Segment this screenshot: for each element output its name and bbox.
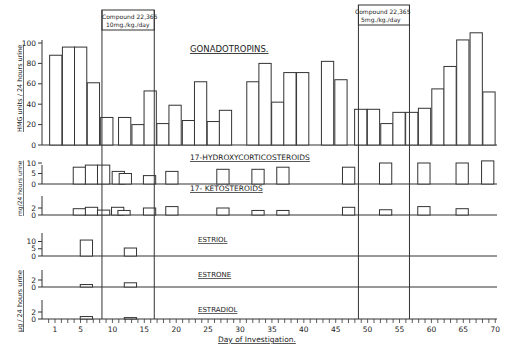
bar-17-ketosteroids <box>85 207 97 215</box>
bar-17-hydroxycorticosteroids <box>379 163 391 184</box>
bar-17-hydroxycorticosteroids <box>97 165 109 184</box>
y-tick-label: 80 <box>26 59 36 68</box>
bar-gonadotropins <box>470 33 482 145</box>
x-tick-label: 30 <box>235 325 245 334</box>
bar-17-ketosteroids <box>418 207 430 215</box>
bar-gonadotropins <box>335 80 347 145</box>
xlabel-day: Day of Investigation. <box>218 335 296 344</box>
y-tick-label: 60 <box>26 79 36 88</box>
bar-gonadotropins <box>101 117 113 145</box>
x-tick-label: 25 <box>203 325 213 334</box>
x-tick-label: 20 <box>171 325 181 334</box>
bar-17-ketosteroids <box>118 210 130 215</box>
x-tick-label: 45 <box>331 325 341 334</box>
bar-gonadotropins <box>207 122 219 145</box>
bar-17-ketosteroids <box>379 210 391 215</box>
bar-gonadotropins <box>132 125 144 145</box>
x-tick-label: 70 <box>490 325 500 334</box>
bar-gonadotropins <box>355 109 367 145</box>
bar-17-ketosteroids <box>252 210 264 215</box>
bar-gonadotropins <box>272 102 284 145</box>
bar-gonadotropins <box>457 40 469 145</box>
title-estrone: ESTRONE <box>198 271 231 279</box>
bar-17-ketosteroids <box>97 210 109 215</box>
bar-gonadotropins <box>119 117 131 145</box>
bar-gonadotropins <box>297 73 309 145</box>
bar-gonadotropins <box>483 92 495 145</box>
bar-17-hydroxycorticosteroids <box>119 174 131 185</box>
y-tick-label: 2 <box>31 308 36 317</box>
y-tick-label: 2 <box>31 276 36 285</box>
title-estriol: ESTRIOL <box>198 236 228 244</box>
bar-17-hydroxycorticosteroids <box>217 169 229 184</box>
x-tick-label: 55 <box>395 325 405 334</box>
bar-gonadotropins <box>157 124 169 145</box>
y-tick-label: 5 <box>31 169 36 178</box>
bar-gonadotropins <box>194 82 206 145</box>
bar-gonadotropins <box>321 61 333 145</box>
bar-17-ketosteroids <box>217 208 229 215</box>
y-tick-label: 10 <box>26 159 36 168</box>
treatment-1-line2: 10mg./kg./day <box>106 21 150 29</box>
bar-17-hydroxycorticosteroids <box>73 167 85 184</box>
bar-gonadotropins <box>219 110 231 145</box>
bar-estriol <box>124 248 136 256</box>
title-gonadotropins: GONADOTROPINS. <box>190 44 269 54</box>
bar-17-ketosteroids <box>277 210 289 215</box>
ylabel-mg: mg/24 hours urine <box>16 160 24 216</box>
y-tick-label: 40 <box>26 100 36 109</box>
x-tick-label: 35 <box>267 325 277 334</box>
bar-gonadotropins <box>406 112 418 145</box>
bar-gonadotropins <box>259 63 271 145</box>
treatment-2-line1: Compound 22,365 <box>355 8 411 16</box>
chart-panels: 0204060801000510020510020215101520253035… <box>22 5 501 334</box>
y-tick-label: 20 <box>26 120 36 129</box>
title-estradiol: ESTRADIOL <box>198 306 237 314</box>
bar-17-hydroxycorticosteroids <box>342 167 354 184</box>
x-tick-label: 60 <box>427 325 437 334</box>
title-17-hydroxycorticosteroids: 17-HYDROXYCORTICOSTEROIDS <box>190 153 310 162</box>
bar-gonadotropins <box>62 47 74 145</box>
y-tick-label: 2 <box>31 204 36 213</box>
x-tick-label: 40 <box>299 325 309 334</box>
bar-gonadotropins <box>367 109 379 145</box>
treatment-1-line1: Compound 22,365 <box>102 13 158 21</box>
x-tick-label: 10 <box>108 325 118 334</box>
bar-gonadotropins <box>284 73 296 145</box>
bar-gonadotropins <box>75 47 87 145</box>
y-tick-label: 10 <box>26 237 36 246</box>
ylabel-ug: µg / 24 hours urine <box>16 270 24 332</box>
y-tick-label: 0 <box>31 180 36 189</box>
bar-gonadotropins <box>169 105 181 145</box>
bar-estradiol <box>124 318 136 319</box>
bar-gonadotropins <box>50 55 62 145</box>
x-tick-label: 50 <box>363 325 373 334</box>
bar-gonadotropins <box>87 83 99 145</box>
bar-gonadotropins <box>418 108 430 145</box>
bar-17-hydroxycorticosteroids <box>252 169 264 184</box>
bar-gonadotropins <box>393 112 405 145</box>
bar-gonadotropins <box>182 121 194 145</box>
bar-17-hydroxycorticosteroids <box>277 167 289 184</box>
bar-17-ketosteroids <box>342 207 354 215</box>
title-17-ketosteroids: 17- KETOSTEROIDS <box>190 184 263 193</box>
bar-17-ketosteroids <box>456 209 468 215</box>
bar-gonadotropins <box>444 66 456 145</box>
bar-17-hydroxycorticosteroids <box>166 171 178 184</box>
bar-estriol <box>80 240 92 256</box>
bar-17-hydroxycorticosteroids <box>482 161 494 184</box>
bar-gonadotropins <box>381 124 393 145</box>
bar-estradiol <box>80 317 92 319</box>
y-tick-label: 0 <box>31 141 36 150</box>
x-tick-label: 15 <box>140 325 150 334</box>
bar-17-ketosteroids <box>73 209 85 215</box>
bar-17-hydroxycorticosteroids <box>418 163 430 184</box>
bar-estrone <box>80 285 92 287</box>
bar-17-hydroxycorticosteroids <box>85 165 97 184</box>
ylabel-hmg: HMG units / 24 hours urine <box>16 45 24 132</box>
x-tick-label: 1 <box>53 325 58 334</box>
x-tick-label: 65 <box>459 325 469 334</box>
bar-17-hydroxycorticosteroids <box>456 163 468 184</box>
bar-17-ketosteroids <box>166 207 178 215</box>
x-tick-label: 5 <box>78 325 83 334</box>
